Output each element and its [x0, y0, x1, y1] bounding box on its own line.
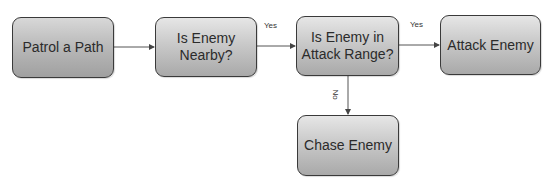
node-chase-enemy: Chase Enemy: [297, 115, 399, 176]
node-label: Patrol a Path: [23, 39, 104, 56]
node-label: Attack Enemy: [447, 37, 533, 54]
node-label: Chase Enemy: [304, 137, 392, 154]
node-label: Is Enemy in Attack Range?: [300, 29, 396, 63]
node-patrol-a-path: Patrol a Path: [12, 17, 114, 78]
edge-label-yes-nearby: Yes: [264, 21, 277, 30]
node-is-enemy-nearby: Is Enemy Nearby?: [155, 17, 257, 77]
edge-label-no: No: [331, 89, 340, 99]
node-attack-enemy: Attack Enemy: [440, 15, 541, 75]
node-label: Is Enemy Nearby?: [171, 30, 241, 64]
node-is-enemy-in-attack-range: Is Enemy in Attack Range?: [296, 16, 399, 76]
edge-label-yes-in-range: Yes: [410, 20, 423, 29]
